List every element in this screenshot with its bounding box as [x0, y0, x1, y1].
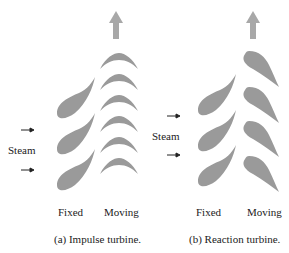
impulse-fixed-blades — [57, 77, 95, 190]
diagram-graphics — [0, 0, 289, 253]
reaction-turbine — [167, 11, 279, 192]
impulse-flow-arrow-icon — [109, 11, 123, 39]
reaction-flow-arrow-icon — [246, 11, 260, 39]
turbine-diagram: Steam Fixed Moving (a) Impulse turbine. … — [0, 0, 289, 253]
impulse-moving-label: Moving — [104, 207, 139, 218]
impulse-fixed-label: Fixed — [58, 207, 83, 218]
impulse-turbine — [21, 11, 138, 190]
reaction-caption: (b) Reaction turbine. — [189, 234, 280, 245]
reaction-fixed-label: Fixed — [196, 207, 221, 218]
reaction-moving-blades — [243, 51, 279, 192]
reaction-steam-label: Steam — [152, 131, 180, 142]
impulse-caption: (a) Impulse turbine. — [54, 234, 141, 245]
reaction-fixed-blades — [198, 74, 236, 186]
impulse-moving-blades — [100, 53, 138, 174]
impulse-steam-label: Steam — [8, 145, 36, 156]
reaction-moving-label: Moving — [247, 207, 282, 218]
